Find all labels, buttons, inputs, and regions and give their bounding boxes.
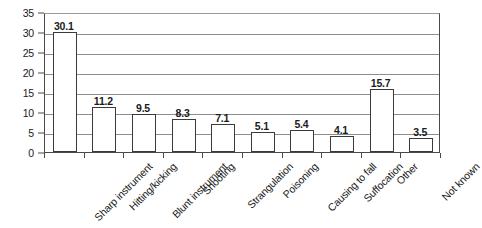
x-axis-tick-mark	[282, 153, 283, 158]
y-axis-tick-label: 25	[23, 48, 34, 59]
bar-value-label: 9.5	[136, 103, 150, 114]
bar	[290, 130, 314, 152]
bar	[409, 138, 433, 152]
bar	[330, 136, 354, 152]
bar-value-label: 30.1	[54, 20, 74, 31]
x-axis-tick-mark	[202, 153, 203, 158]
x-axis-tick-mark	[321, 153, 322, 158]
bar-value-label: 15.7	[371, 78, 391, 89]
bar-value-label: 8.3	[176, 107, 190, 118]
x-axis-tick-mark	[361, 153, 362, 158]
x-axis-tick-mark	[123, 153, 124, 158]
bar-value-label: 5.1	[255, 120, 269, 131]
bar-value-label: 3.5	[413, 127, 427, 138]
bar-value-label: 11.2	[94, 96, 113, 107]
y-axis-tick-label: 10	[23, 108, 34, 119]
bar	[251, 132, 275, 152]
y-axis: 05101520253035	[0, 0, 44, 160]
bar	[92, 107, 116, 152]
x-axis-tick-mark	[440, 153, 441, 158]
bar-value-label: 7.1	[215, 112, 229, 123]
y-axis-tick-label: 0	[28, 148, 34, 159]
y-axis-tick-label: 20	[23, 68, 34, 79]
bar	[211, 124, 235, 152]
bar	[53, 32, 77, 152]
bar-value-label: 4.1	[334, 124, 348, 135]
x-axis-tick-mark	[400, 153, 401, 158]
bar	[370, 89, 394, 152]
x-axis-tick-mark	[44, 153, 45, 158]
x-axis-tick-mark	[163, 153, 164, 158]
gridline	[45, 34, 439, 35]
x-axis-tick-mark	[242, 153, 243, 158]
y-axis-tick-label: 35	[23, 8, 34, 19]
bar-value-label: 5.4	[294, 119, 308, 130]
gridline	[45, 74, 439, 75]
x-axis-category-label: Not known	[440, 161, 481, 202]
y-axis-tick-label: 15	[23, 88, 34, 99]
bar	[132, 114, 156, 152]
y-axis-tick-label: 5	[28, 128, 34, 139]
bar	[172, 119, 196, 152]
y-axis-tick-label: 30	[23, 28, 34, 39]
x-axis-tick-mark	[84, 153, 85, 158]
gridline	[45, 54, 439, 55]
